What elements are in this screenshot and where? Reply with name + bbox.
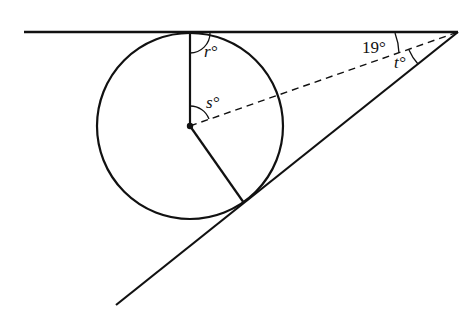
dashed-bisector bbox=[190, 32, 458, 126]
label-s: s° bbox=[206, 93, 220, 112]
lower-tangent-line bbox=[116, 32, 458, 305]
arc-19 bbox=[395, 33, 399, 53]
center-point bbox=[187, 123, 193, 129]
geometry-diagram: r° s° 19° t° bbox=[0, 0, 470, 316]
diagram-canvas: r° s° 19° t° bbox=[0, 0, 470, 316]
label-19: 19° bbox=[362, 38, 386, 57]
label-r: r° bbox=[204, 42, 218, 61]
arc-t bbox=[409, 50, 418, 64]
label-t: t° bbox=[394, 53, 406, 72]
radius-to-tangent bbox=[190, 126, 244, 203]
